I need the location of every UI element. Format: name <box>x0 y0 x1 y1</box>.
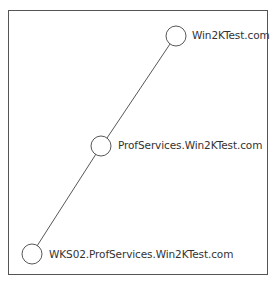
edge-child-grandchild <box>37 154 96 246</box>
node-child-circle <box>91 136 111 156</box>
node-child-label: ProfServices.Win2KTest.com <box>118 139 262 151</box>
node-root-circle <box>166 26 186 46</box>
node-root-label: Win2KTest.com <box>192 29 270 41</box>
node-grandchild-circle <box>22 244 42 264</box>
edge-root-child <box>107 44 170 138</box>
node-grandchild-label: WKS02.ProfServices.Win2KTest.com <box>49 248 233 260</box>
